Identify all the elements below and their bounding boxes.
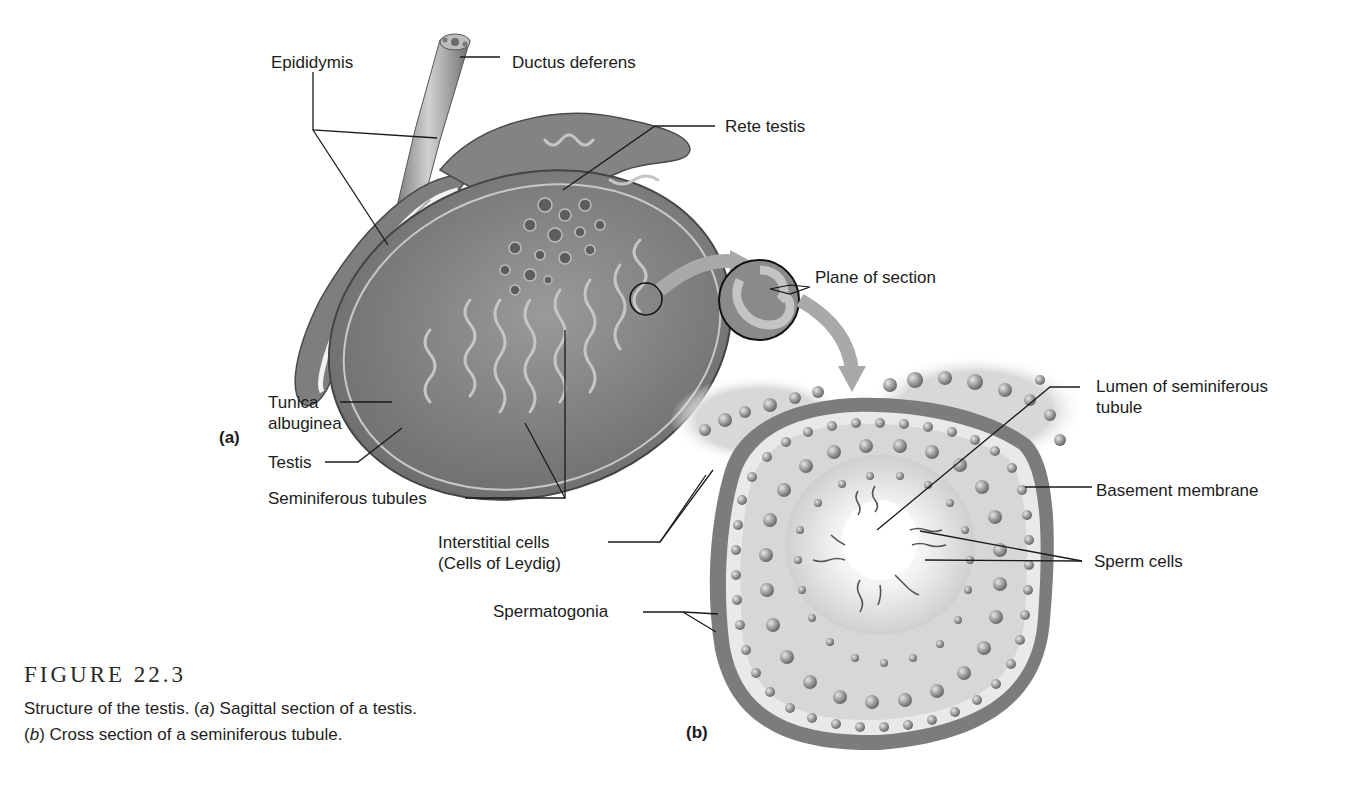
label-tunica-line2: albuginea — [268, 413, 342, 434]
caption-2-italic: b — [30, 725, 39, 744]
panel-label-b: (b) — [686, 723, 708, 743]
label-sperm-cells: Sperm cells — [1094, 551, 1183, 572]
caption-line-2: (b) Cross section of a seminiferous tubu… — [24, 722, 342, 748]
label-epididymis: Epididymis — [271, 52, 353, 73]
caption-line-1: Structure of the testis. (a) Sagittal se… — [24, 696, 417, 722]
caption-1-pre: Structure of the testis. ( — [24, 699, 200, 718]
label-rete-testis: Rete testis — [725, 116, 805, 137]
panel-label-a: (a) — [219, 428, 240, 448]
label-interstitial-line2: (Cells of Leydig) — [438, 553, 561, 574]
label-testis: Testis — [268, 452, 311, 473]
label-lumen-line1: Lumen of seminiferous — [1096, 376, 1268, 397]
label-seminiferous-tubules: Seminiferous tubules — [268, 488, 427, 509]
caption-1-post: ) Sagittal section of a testis. — [209, 699, 417, 718]
caption-1-italic: a — [200, 699, 209, 718]
label-basement-membrane: Basement membrane — [1096, 480, 1259, 501]
label-ductus-deferens: Ductus deferens — [512, 52, 636, 73]
label-spermatogonia: Spermatogonia — [493, 601, 608, 622]
label-plane-of-section: Plane of section — [815, 267, 936, 288]
figure-number: FIGURE 22.3 — [24, 662, 186, 688]
cross-section-tubule — [670, 355, 1085, 750]
label-tunica-line1: Tunica — [268, 392, 318, 413]
caption-2-post: ) Cross section of a seminiferous tubule… — [39, 725, 342, 744]
sagittal-section-testis — [286, 34, 775, 551]
label-interstitial-line1: Interstitial cells — [438, 532, 549, 553]
label-lumen-line2: tubule — [1096, 397, 1142, 418]
magnified-tubule — [719, 260, 810, 340]
